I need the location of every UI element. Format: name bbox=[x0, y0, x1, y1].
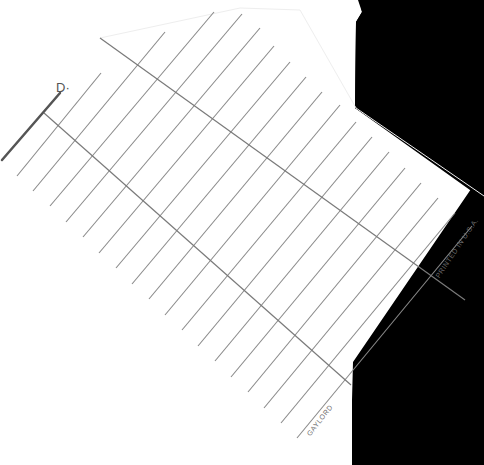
heavy-edge-stroke bbox=[2, 93, 60, 160]
date-due-card-scene bbox=[0, 0, 484, 465]
date-heading-fragment: D· bbox=[56, 80, 70, 95]
